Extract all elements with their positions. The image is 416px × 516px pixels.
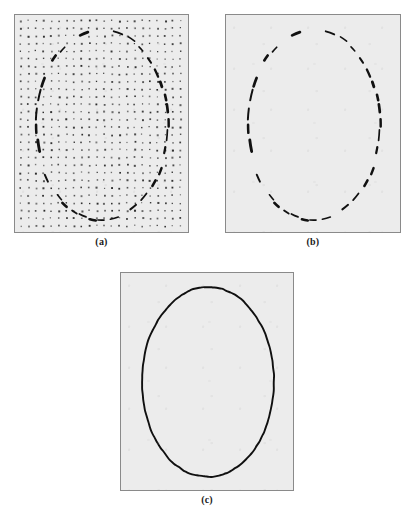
grid-dot	[156, 150, 158, 152]
grid-dot	[73, 179, 75, 181]
grid-dot	[179, 187, 180, 188]
grid-dot	[164, 35, 166, 37]
grid-dot	[156, 20, 157, 21]
grid-dot	[59, 96, 61, 98]
grid-dot	[164, 81, 166, 83]
grid-dot	[126, 27, 128, 29]
grid-dot	[35, 97, 37, 99]
grid-dot	[165, 51, 166, 52]
ellipse-arc-segment	[284, 211, 289, 214]
grid-dot	[142, 111, 144, 113]
grid-dot	[65, 35, 66, 36]
grid-dot	[88, 149, 90, 151]
grid-dot	[141, 89, 143, 91]
grid-dot	[111, 58, 112, 59]
grid-dot	[157, 188, 158, 189]
grid-dot	[179, 142, 181, 144]
grid-dot	[127, 210, 129, 212]
grid-dot	[150, 195, 151, 196]
grid-dot	[103, 88, 105, 90]
grid-dot	[126, 142, 127, 143]
grid-dot	[157, 172, 158, 173]
grid-dot	[172, 172, 173, 173]
grid-dot	[172, 73, 174, 75]
grid-dot	[150, 112, 152, 114]
grid-dot	[111, 119, 112, 120]
ellipse-arc-segment	[164, 147, 165, 153]
grid-dot	[95, 127, 97, 129]
grid-dot	[88, 126, 90, 128]
grid-dot	[20, 112, 22, 114]
grid-dot	[157, 103, 159, 105]
ellipse-arc-segment	[38, 140, 40, 152]
grid-dot	[112, 35, 114, 37]
grid-dot	[21, 210, 23, 212]
grid-dot	[81, 134, 83, 136]
grid-dot	[50, 35, 52, 37]
grid-dot	[42, 156, 44, 158]
ellipse-arc-segment	[360, 58, 363, 63]
grid-dot	[81, 210, 83, 212]
grid-dot	[50, 225, 52, 227]
grid-dot	[173, 118, 175, 120]
grid-dot	[165, 28, 167, 30]
grid-dot	[119, 51, 120, 52]
grid-dot	[58, 217, 60, 219]
grid-dot	[27, 20, 28, 21]
grid-dot	[164, 43, 165, 44]
grid-dot	[20, 118, 22, 120]
ellipse-arc-segment	[269, 195, 273, 200]
grid-dot	[179, 156, 181, 158]
grid-dot	[21, 134, 23, 136]
grid-dot	[35, 66, 37, 68]
grid-dot	[35, 50, 36, 51]
grid-dot	[118, 126, 120, 128]
grid-dot	[51, 66, 53, 68]
grid-dot	[89, 141, 90, 142]
grid-dot	[179, 127, 181, 129]
ellipse-arc-segment	[90, 219, 96, 220]
grid-dot	[134, 165, 136, 167]
grid-dot	[80, 103, 81, 104]
grid-dot	[58, 28, 60, 30]
grid-dot	[164, 195, 165, 196]
grid-dot	[19, 187, 21, 189]
grid-dot	[28, 172, 29, 173]
grid-dot	[126, 119, 128, 121]
grid-dot	[19, 173, 21, 175]
grid-dot	[156, 126, 158, 128]
ellipse-arc-segment	[377, 95, 378, 101]
grid-dot	[180, 119, 182, 121]
grid-dot	[142, 65, 143, 66]
grid-dot	[127, 88, 129, 90]
grid-dot	[35, 173, 37, 175]
grid-dot	[104, 210, 106, 212]
grid-dot	[59, 149, 60, 150]
grid-dot	[35, 73, 37, 75]
figure-panel-b	[225, 14, 401, 233]
grid-dot	[150, 50, 151, 51]
grid-dot	[43, 66, 45, 68]
grid-dot	[73, 27, 75, 29]
grid-dot	[134, 210, 136, 212]
ellipse-arc-segment	[250, 90, 252, 101]
grid-dot	[142, 172, 144, 174]
ellipse-arc-segment	[167, 130, 168, 140]
grid-dot	[157, 165, 158, 166]
grid-dot	[66, 20, 68, 22]
ellipse-arc-segment	[322, 217, 330, 219]
grid-dot	[89, 96, 90, 97]
grid-dot	[50, 27, 52, 29]
grid-dot	[165, 89, 167, 91]
grid-dot	[73, 20, 75, 22]
grid-dot	[127, 43, 129, 45]
grid-dot	[51, 21, 53, 23]
grid-dot	[57, 119, 58, 120]
ellipse-arc-segment	[250, 140, 252, 152]
grid-dot	[80, 119, 81, 120]
grid-dot	[149, 180, 151, 182]
grid-dot	[111, 172, 112, 173]
grid-dot	[28, 73, 30, 75]
grid-dot	[81, 111, 82, 112]
grid-dot	[58, 21, 60, 23]
